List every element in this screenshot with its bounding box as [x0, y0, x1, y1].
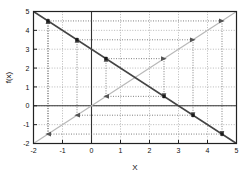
- x-axis-title: X: [132, 163, 138, 172]
- y-tick-label: 0: [26, 102, 30, 109]
- x-tick-label: 1: [119, 147, 123, 154]
- x-tick-label: -1: [59, 147, 65, 154]
- y-tick-label: 2: [26, 65, 30, 72]
- y-tick-label: 4: [26, 27, 30, 34]
- cobweb-vertex-marker: [220, 132, 223, 135]
- y-tick-label: 3: [26, 46, 30, 53]
- y-tick-label: 5: [26, 8, 30, 15]
- y-tick-label: -1: [23, 121, 29, 128]
- x-tick-label: 3: [177, 147, 181, 154]
- x-tick-label: -2: [30, 147, 36, 154]
- x-tick-label: 2: [148, 147, 152, 154]
- cobweb-vertex-marker: [191, 114, 194, 117]
- x-tick-label: 0: [90, 147, 94, 154]
- x-tick-label: 5: [235, 147, 239, 154]
- cobweb-vertex-marker: [104, 57, 107, 60]
- y-axis-title: f(x): [4, 71, 13, 83]
- cobweb-vertex-marker: [75, 38, 78, 41]
- cobweb-vertex-marker: [46, 19, 49, 22]
- chart-background: [0, 0, 248, 181]
- chart-svg: -2-1012345-2-1012345Xf(x): [0, 0, 248, 181]
- y-tick-label: 1: [26, 84, 30, 91]
- cobweb-chart: -2-1012345-2-1012345Xf(x): [0, 0, 248, 181]
- cobweb-vertex-marker: [162, 95, 165, 98]
- x-tick-label: 4: [206, 147, 210, 154]
- y-tick-label: -2: [23, 140, 29, 147]
